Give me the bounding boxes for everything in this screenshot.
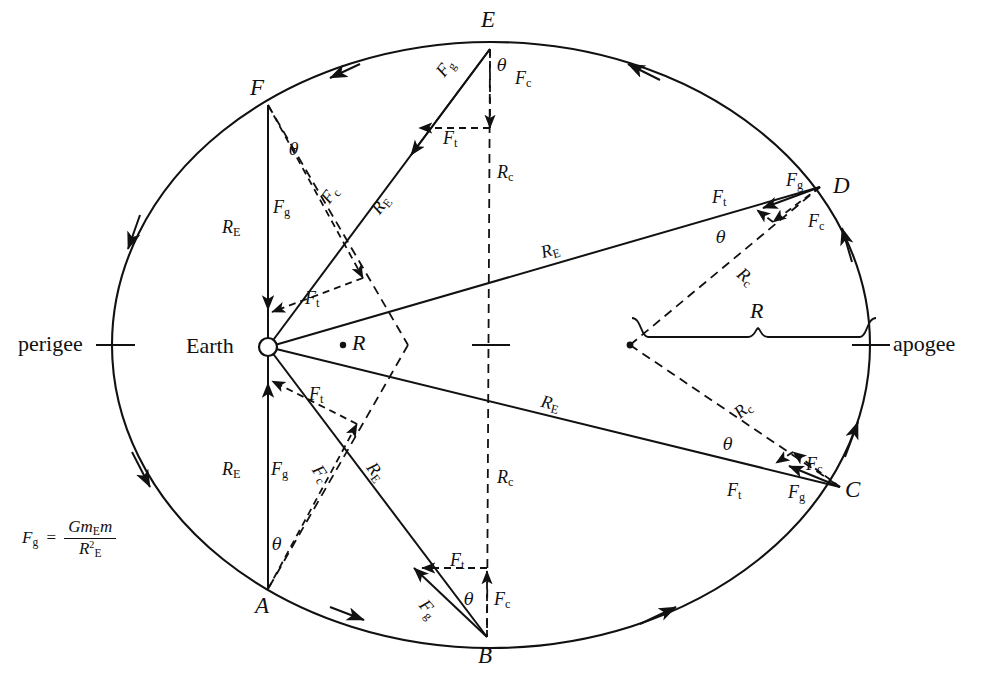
- Fg-label-D: Fg: [786, 171, 803, 191]
- focus-dot: [627, 342, 634, 349]
- point-label-F: F: [250, 76, 264, 99]
- Fc-label-E: Fc: [515, 69, 531, 89]
- theta-label-A: θ: [272, 537, 282, 553]
- Ft-vector-D: [757, 210, 773, 222]
- Fc-label-C: Fc: [806, 455, 822, 475]
- gravitation-formula: Fg = GmEm R2E: [22, 518, 116, 560]
- RE-label-F: RE: [222, 218, 240, 238]
- center-R-label: R: [352, 332, 365, 354]
- earth-label: Earth: [186, 335, 234, 357]
- Fc-label-B: Fc: [494, 590, 510, 610]
- RE-label-A: RE: [222, 460, 240, 480]
- Ft-vector-C: [776, 452, 793, 463]
- brace-R-label: R: [750, 300, 763, 322]
- Rc-label-top: Rc: [497, 163, 513, 183]
- RE-line-B: [268, 347, 487, 637]
- Fc-vector-A: [268, 424, 357, 589]
- Ft-label-A: Ft: [309, 385, 323, 405]
- theta-label-E: θ: [497, 58, 507, 74]
- Ft-label-F: Ft: [305, 289, 319, 309]
- force-triangle-A: [268, 381, 357, 589]
- Rc-line-E-B: [487, 49, 490, 637]
- point-label-C: C: [845, 478, 860, 501]
- RE-line-C: [268, 347, 840, 487]
- Fc-vector-F: [268, 105, 363, 278]
- theta-label-C: θ: [723, 437, 733, 453]
- Ft-label-D: Ft: [712, 188, 726, 208]
- apogee-label: apogee: [893, 333, 955, 355]
- perigee-label: perigee: [18, 333, 83, 355]
- Fg-label-C: Fg: [788, 483, 805, 503]
- Rc-line-A: [268, 345, 408, 589]
- orbit-diagram-svg: [0, 0, 982, 676]
- Ft-label-B: Ft: [450, 551, 464, 571]
- figure-canvas: E F D C A B perigee apogee Earth R R Fg …: [0, 0, 982, 676]
- Rc-line-D: [630, 187, 820, 345]
- theta-label-F: θ: [289, 142, 299, 158]
- point-label-E: E: [481, 8, 495, 31]
- theta-label-D: θ: [716, 230, 726, 246]
- Fc-label-D: Fc: [808, 212, 824, 232]
- earth-marker: [259, 338, 277, 356]
- Ft-label-E: Ft: [443, 129, 457, 149]
- Fg-label-A: Fg: [271, 460, 288, 480]
- center-R-dot: [340, 342, 346, 348]
- Fg-label-F: Fg: [273, 198, 290, 218]
- point-label-B: B: [478, 644, 492, 667]
- Ft-label-C: Ft: [727, 481, 741, 501]
- RE-line-D: [268, 187, 820, 347]
- point-label-D: D: [833, 174, 850, 197]
- Rc-label-bottom: Rc: [497, 468, 513, 488]
- point-label-A: A: [255, 594, 269, 617]
- theta-label-B: θ: [464, 592, 474, 608]
